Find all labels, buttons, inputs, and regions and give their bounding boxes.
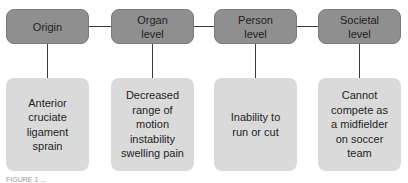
- figure-caption: FIGURE 1 ...: [6, 176, 46, 183]
- detail-box-origin: Anterior cruciate ligament sprain: [6, 78, 89, 171]
- detail-box-societal: Cannot compete as a midfielder on soccer…: [318, 78, 401, 171]
- level-label: Societal level: [337, 13, 383, 41]
- level-label: Origin: [33, 20, 62, 34]
- connector-person-societal: [297, 26, 318, 27]
- level-box-person: Person level: [214, 9, 297, 44]
- level-box-societal: Societal level: [318, 9, 401, 44]
- detail-text: Decreased range of motion instability sw…: [115, 88, 190, 161]
- connector-origin-detail: [47, 44, 48, 78]
- detail-box-person: Inability to run or cut: [214, 78, 297, 171]
- connector-person-detail: [255, 44, 256, 78]
- connector-organ-detail: [152, 44, 153, 78]
- detail-box-organ: Decreased range of motion instability sw…: [111, 78, 194, 171]
- level-box-origin: Origin: [6, 9, 89, 44]
- level-box-organ: Organ level: [111, 9, 194, 44]
- level-label: Person level: [234, 13, 278, 41]
- connector-societal-detail: [359, 44, 360, 78]
- level-label: Organ level: [133, 13, 173, 41]
- connector-organ-person: [193, 26, 214, 27]
- connector-origin-organ: [89, 26, 111, 27]
- detail-text: Anterior cruciate ligament sprain: [20, 96, 76, 154]
- detail-text: Cannot compete as a midfielder on soccer…: [327, 88, 393, 161]
- disablement-model-diagram: Origin Organ level Person level Societal…: [0, 0, 408, 183]
- detail-text: Inability to run or cut: [225, 110, 287, 139]
